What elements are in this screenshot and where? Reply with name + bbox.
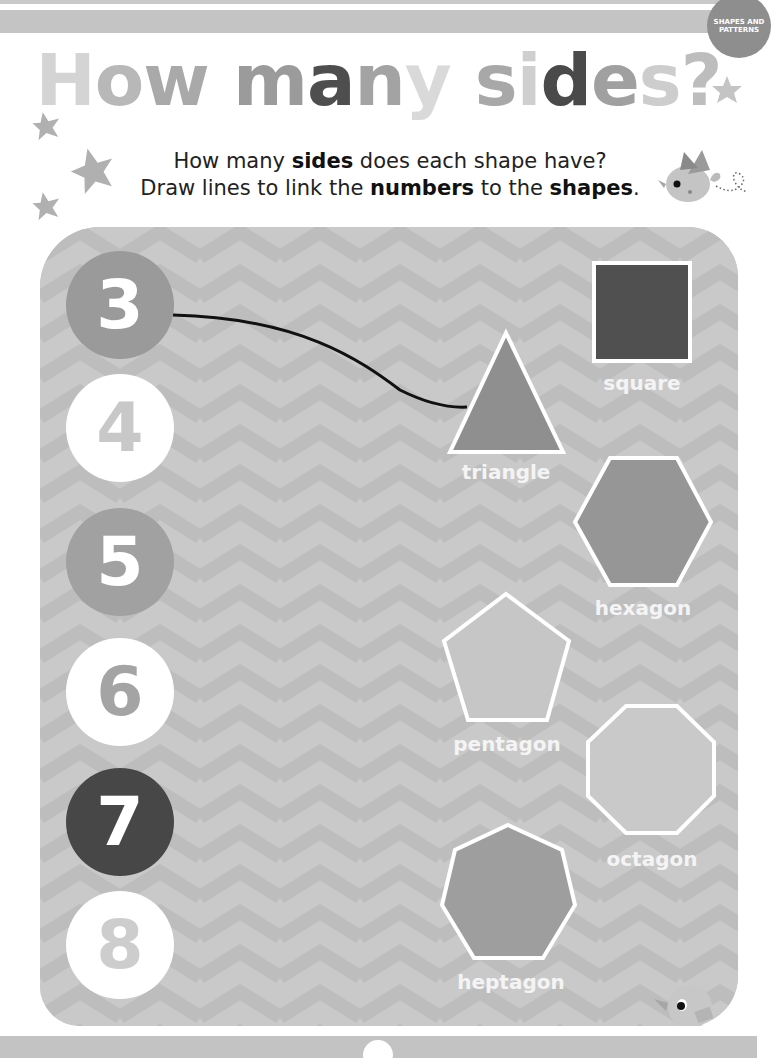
label-hexagon: hexagon [563,596,723,620]
square-shape[interactable] [594,263,690,361]
number-circle-8[interactable]: 8 [66,891,174,999]
label-octagon: octagon [572,847,732,871]
label-square: square [562,371,722,395]
number-label: 5 [96,528,143,596]
label-pentagon: pentagon [427,732,587,756]
triangle-shape[interactable] [450,333,563,452]
octagon-shape[interactable] [588,706,714,833]
bottom-spacer [0,1026,757,1036]
label-heptagon: heptagon [431,970,591,994]
number-label: 4 [96,394,143,462]
answer-line [173,315,467,407]
number-circle-6[interactable]: 6 [66,638,174,746]
label-triangle: triangle [426,460,586,484]
number-circle-4[interactable]: 4 [66,374,174,482]
number-circle-7[interactable]: 7 [66,768,174,876]
number-label: 6 [96,658,143,726]
number-label: 7 [96,788,143,856]
pentagon-shape[interactable] [444,594,569,720]
hexagon-shape[interactable] [575,458,711,585]
heptagon-shape[interactable] [442,825,575,958]
number-label: 8 [96,911,143,979]
number-label: 3 [96,271,143,339]
number-circle-5[interactable]: 5 [66,508,174,616]
number-circle-3[interactable]: 3 [66,251,174,359]
